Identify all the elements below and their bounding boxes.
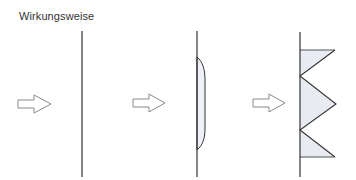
diagram-canvas <box>0 0 356 180</box>
arrow-right-icon <box>18 95 51 113</box>
panel-1 <box>18 31 82 177</box>
panel-2 <box>133 31 205 177</box>
zigzag-fold-shape <box>300 50 336 157</box>
arrow-right-icon <box>253 94 285 112</box>
panel-3 <box>253 32 336 177</box>
arrow-right-icon <box>133 94 165 112</box>
bulge-shape <box>197 57 205 150</box>
